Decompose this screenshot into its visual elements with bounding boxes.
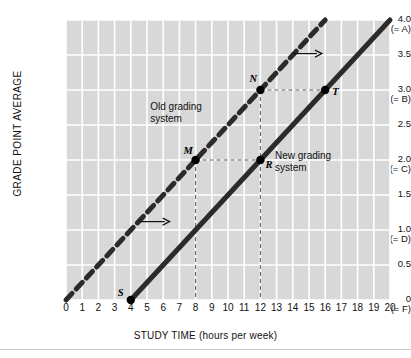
y-tick-value: 2.5 [398,118,411,129]
point-label-T: T [332,86,338,97]
chart-figure: GRADE POINT AVERAGE 4.0(= A)3.53.0(= B)2… [0,0,411,358]
point-label-N: N [249,73,257,84]
y-tick-value: 0.5 [398,258,411,269]
data-point-T [321,86,329,94]
old-system-label: Old grading system [150,101,202,125]
x-tick-20: 20 [379,302,401,313]
y-tick-value: 1.5 [398,188,411,199]
data-point-N [256,86,264,94]
point-label-S: S [118,287,124,298]
new-system-label: New grading system [275,150,331,174]
data-point-M [191,156,199,164]
x-axis-title: STUDY TIME (hours per week) [0,330,411,341]
y-tick-value: 3.5 [398,48,411,59]
plot-area: SMNRTOld grading systemNew grading syste… [66,20,390,300]
y-axis-title: GRADE POINT AVERAGE [12,34,23,234]
data-point-R [256,156,264,164]
point-label-R: R [265,159,272,170]
point-label-M: M [184,145,193,156]
figure-baseline-divider [0,349,411,350]
data-lines-and-points [66,20,390,300]
